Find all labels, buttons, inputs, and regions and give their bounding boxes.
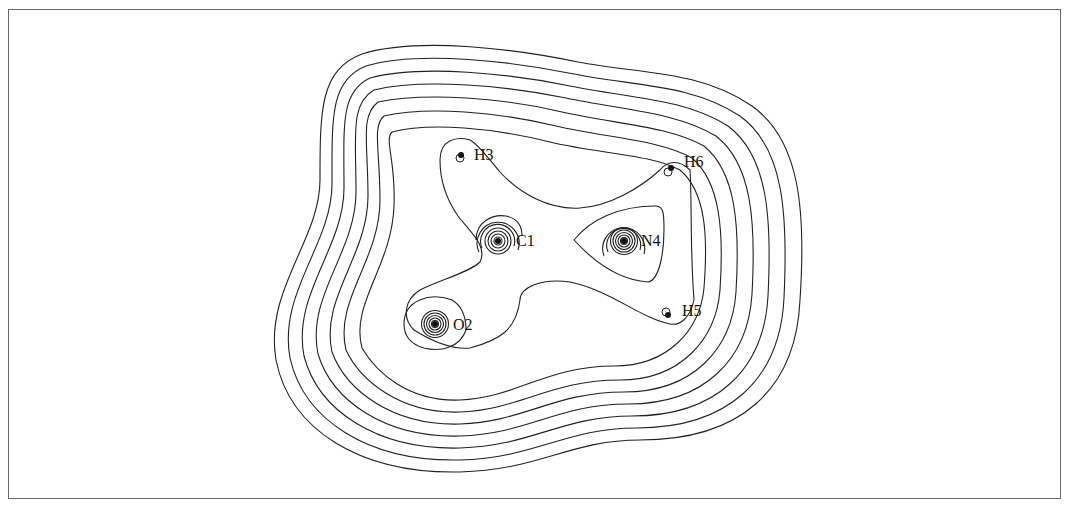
nucleus-c1 [495,238,501,244]
nucleus-h5 [665,312,671,318]
nucleus-n4 [621,238,627,244]
label-o2: O2 [453,316,473,333]
label-n4: N4 [641,232,661,249]
nucleus-o2 [432,321,438,327]
label-c1: C1 [516,232,535,249]
label-h3: H3 [474,146,494,163]
nucleus-h3 [458,152,464,158]
contour-map: H3 C1 N4 H6 O2 H5 [0,0,1071,509]
label-h6: H6 [684,153,704,170]
atom-labels: H3 C1 N4 H6 O2 H5 [453,146,704,333]
nucleus-h6 [668,165,674,171]
outer-contours [274,45,802,472]
label-h5: H5 [682,302,702,319]
